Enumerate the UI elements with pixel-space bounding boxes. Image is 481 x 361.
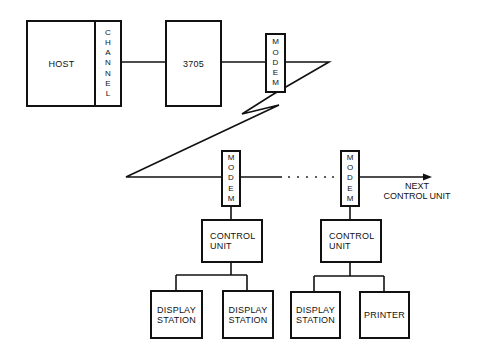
modem-left-label: M O D E M xyxy=(228,153,235,204)
printer-label: PRINTER xyxy=(364,310,405,320)
display-station-2-label: DISPLAY STATION xyxy=(228,305,267,325)
control-unit-left-label: CONTROL UNIT xyxy=(210,231,255,251)
display-station-1-box: DISPLAY STATION xyxy=(150,290,203,339)
modem-right-label: M O D E M xyxy=(347,153,354,204)
control-unit-right-label: CONTROL UNIT xyxy=(329,231,374,251)
host-box: HOST xyxy=(26,20,96,107)
controller-3705-label: 3705 xyxy=(183,59,204,69)
arrow-head-icon xyxy=(423,174,432,181)
channel-box: C H A N N E L xyxy=(94,20,122,107)
display-station-3-box: DISPLAY STATION xyxy=(290,291,341,339)
display-station-2-box: DISPLAY STATION xyxy=(222,290,274,339)
network-diagram: HOST C H A N N E L 3705 M O D E M M O D xyxy=(0,0,481,361)
display-station-3-label: DISPLAY STATION xyxy=(296,305,335,325)
controller-3705-box: 3705 xyxy=(165,20,222,107)
modem-left-box: M O D E M xyxy=(221,150,241,207)
ellipsis-dots xyxy=(288,176,334,178)
host-label: HOST xyxy=(49,59,75,69)
display-station-1-label: DISPLAY STATION xyxy=(157,305,196,325)
next-control-unit-label: NEXT CONTROL UNIT xyxy=(378,181,456,201)
modem-top-box: M O D E M xyxy=(265,33,286,93)
printer-box: PRINTER xyxy=(359,291,410,339)
channel-label: C H A N N E L xyxy=(105,28,111,99)
modem-top-label: M O D E M xyxy=(272,37,279,88)
modem-right-box: M O D E M xyxy=(340,150,360,207)
control-unit-left-box: CONTROL UNIT xyxy=(201,219,263,263)
control-unit-right-box: CONTROL UNIT xyxy=(320,219,382,263)
